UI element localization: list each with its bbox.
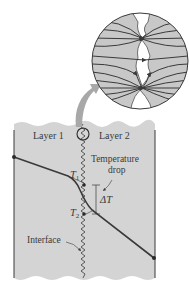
thermal-contact-diagram <box>0 0 189 294</box>
temperature-drop-label-line2: drop <box>108 166 125 176</box>
layer2-label: Layer 2 <box>99 131 130 141</box>
t2-label: T2 <box>70 208 79 220</box>
delta-t-label: ΔT <box>100 195 112 206</box>
right-endpoint-dot <box>152 256 156 260</box>
t2-dot <box>82 212 86 216</box>
t1-dot <box>82 183 86 187</box>
magnified-view <box>92 12 188 112</box>
layer1-label: Layer 1 <box>33 131 64 141</box>
left-endpoint-dot <box>12 155 16 159</box>
temperature-drop-label-line1: Temperature <box>91 155 139 165</box>
t1-label: T1 <box>70 170 79 182</box>
interface-label: Interface <box>27 236 61 246</box>
pointer-arrow <box>76 84 101 127</box>
